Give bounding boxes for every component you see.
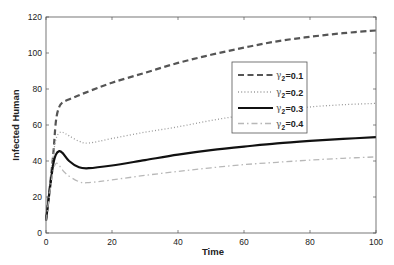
y-tick-label: 40	[33, 156, 43, 166]
x-tick-label: 20	[107, 237, 117, 247]
y-tick-label: 80	[33, 84, 43, 94]
legend-label: =0.4	[286, 119, 304, 129]
legend-label: =0.1	[286, 71, 304, 81]
x-tick-label: 60	[239, 237, 249, 247]
y-tick-label: 0	[37, 228, 42, 238]
y-tick-label: 100	[28, 48, 42, 58]
y-tick-label: 20	[33, 192, 43, 202]
x-tick-label: 0	[44, 237, 49, 247]
x-tick-label: 100	[369, 237, 383, 247]
legend: γ2=0.1γ2=0.2γ2=0.3γ2=0.4	[232, 62, 307, 133]
y-tick-label: 120	[28, 12, 42, 22]
y-axis-label: Infected Human	[10, 89, 21, 160]
x-tick-label: 80	[305, 237, 315, 247]
legend-label: =0.3	[286, 104, 304, 114]
legend-label: =0.2	[286, 88, 304, 98]
x-tick-label: 40	[173, 237, 183, 247]
plot-area	[46, 17, 376, 233]
x-axis-label: Time	[202, 246, 224, 257]
y-tick-label: 60	[33, 120, 43, 130]
y-tick-labels: 020406080100120	[28, 12, 42, 238]
line-chart: 020406080100 020406080100120 Time Infect…	[0, 0, 394, 265]
